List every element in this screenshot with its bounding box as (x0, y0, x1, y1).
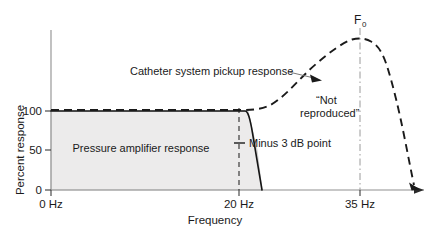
x-tick-label-0hz: 0 Hz (39, 198, 63, 210)
figure-container: 100 50 0 0 Hz 20 Hz 35 Hz Percent respon… (0, 0, 440, 230)
y-tick-label-0: 0 (36, 184, 42, 196)
f0-subscript: 0 (362, 20, 367, 29)
not-reproduced-label-line2: reproduced” (300, 107, 360, 119)
minus-3db-label: Minus 3 dB point (249, 137, 331, 149)
f0-label-group: F 0 (354, 13, 367, 29)
pressure-amplifier-label: Pressure amplifier response (73, 142, 210, 154)
x-tick-label-35hz: 35 Hz (345, 198, 375, 210)
catheter-response-label: Catheter system pickup response (130, 65, 293, 77)
not-reproduced-label-line1: “Not (316, 94, 337, 106)
x-axis-title: Frequency (188, 214, 243, 226)
x-tick-label-20hz: 20 Hz (224, 198, 254, 210)
y-axis-title: Percent response (14, 105, 26, 195)
catheter-leader-arrowhead (310, 75, 322, 83)
response-curve-chart: 100 50 0 0 Hz 20 Hz 35 Hz Percent respon… (0, 0, 440, 230)
f0-label: F (354, 13, 361, 27)
y-tick-label-50: 50 (29, 144, 42, 156)
